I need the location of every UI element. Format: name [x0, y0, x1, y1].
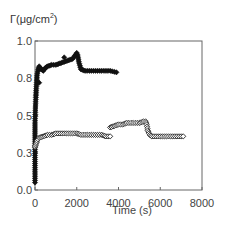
y-tick-label: 0.8	[17, 72, 32, 84]
series-open-diamond	[108, 119, 186, 139]
x-tick-label: 0	[32, 197, 38, 209]
x-tick-label: 8000	[190, 197, 214, 209]
y-tick-label: 0.3	[17, 147, 32, 159]
series-open-diamond	[32, 131, 112, 150]
y-tick-label: 0.0	[17, 184, 32, 196]
series-filled-diamond	[32, 50, 119, 185]
x-axis-title: Time (s)	[112, 204, 152, 216]
y-tick-label: 1.0	[17, 35, 32, 47]
x-tick-label: 2000	[65, 197, 89, 209]
data-points	[32, 50, 185, 185]
chart: 020004000600080000.00.30.50.81.0 Time (s…	[0, 0, 226, 231]
y-tick-label: 0.5	[17, 110, 32, 122]
axis-tick-labels: 020004000600080000.00.30.50.81.0	[17, 35, 215, 209]
